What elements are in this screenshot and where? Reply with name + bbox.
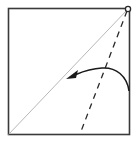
pivot-point-icon <box>125 6 130 11</box>
origami-fold-diagram <box>0 0 137 145</box>
